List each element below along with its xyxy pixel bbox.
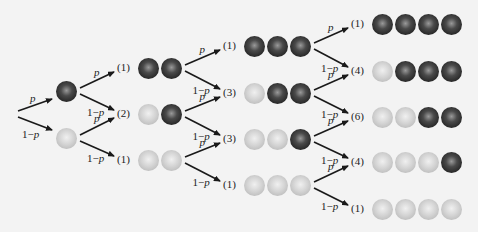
outcome-count: (1): [351, 17, 364, 29]
light-ball-icon: [267, 175, 288, 196]
branch-label-1-minus-p: 1−p: [321, 200, 338, 212]
light-ball-icon: [395, 199, 416, 220]
branch-label-p: p: [94, 112, 100, 124]
dark-ball-icon: [418, 61, 439, 82]
outcome-count: (4): [351, 64, 364, 76]
dark-ball-icon: [441, 152, 462, 173]
light-ball-icon: [418, 199, 439, 220]
dark-ball-icon: [161, 104, 182, 125]
dark-ball-icon: [267, 83, 288, 104]
dark-ball-icon: [395, 61, 416, 82]
branch-label-p: p: [328, 21, 334, 33]
light-ball-icon: [138, 104, 159, 125]
light-ball-icon: [372, 61, 393, 82]
outcome-count: (1): [351, 202, 364, 214]
dark-ball-icon: [267, 36, 288, 57]
outcome-count: (1): [117, 153, 130, 165]
outcome-count: (3): [223, 86, 236, 98]
dark-ball-icon: [56, 81, 77, 102]
dark-ball-icon: [441, 61, 462, 82]
branch-label-p: p: [200, 136, 206, 148]
outcome-count: (3): [223, 132, 236, 144]
probability-tree-diagram: (1)(2)(1)(1)(3)(3)(1)(1)(4)(6)(4)(1)p1−p…: [0, 0, 478, 232]
dark-ball-icon: [290, 83, 311, 104]
light-ball-icon: [418, 152, 439, 173]
dark-ball-icon: [290, 129, 311, 150]
dark-ball-icon: [372, 14, 393, 35]
dark-ball-icon: [138, 58, 159, 79]
dark-ball-icon: [418, 14, 439, 35]
outcome-count: (4): [351, 155, 364, 167]
light-ball-icon: [161, 150, 182, 171]
branch-label-p: p: [200, 43, 206, 55]
light-ball-icon: [244, 83, 265, 104]
dark-ball-icon: [441, 14, 462, 35]
light-ball-icon: [395, 152, 416, 173]
outcome-count: (1): [117, 61, 130, 73]
outcome-count: (1): [223, 39, 236, 51]
dark-ball-icon: [441, 107, 462, 128]
branch-label-p: p: [30, 92, 36, 104]
dark-ball-icon: [244, 36, 265, 57]
light-ball-icon: [267, 129, 288, 150]
branch-label-p: p: [200, 90, 206, 102]
light-ball-icon: [441, 199, 462, 220]
light-ball-icon: [138, 150, 159, 171]
outcome-count: (1): [223, 178, 236, 190]
branch-label-1-minus-p: 1−p: [22, 128, 39, 140]
light-ball-icon: [56, 128, 77, 149]
dark-ball-icon: [161, 58, 182, 79]
light-ball-icon: [244, 129, 265, 150]
light-ball-icon: [372, 199, 393, 220]
light-ball-icon: [244, 175, 265, 196]
light-ball-icon: [372, 152, 393, 173]
outcome-count: (6): [351, 110, 364, 122]
branch-label-p: p: [328, 68, 334, 80]
branch-label-p: p: [94, 66, 100, 78]
light-ball-icon: [290, 175, 311, 196]
branch-label-1-minus-p: 1−p: [193, 176, 210, 188]
light-ball-icon: [395, 107, 416, 128]
dark-ball-icon: [418, 107, 439, 128]
branch-label-1-minus-p: 1−p: [87, 152, 104, 164]
outcome-count: (2): [117, 107, 130, 119]
dark-ball-icon: [290, 36, 311, 57]
branch-label-p: p: [328, 114, 334, 126]
light-ball-icon: [372, 107, 393, 128]
dark-ball-icon: [395, 14, 416, 35]
branch-label-p: p: [328, 160, 334, 172]
